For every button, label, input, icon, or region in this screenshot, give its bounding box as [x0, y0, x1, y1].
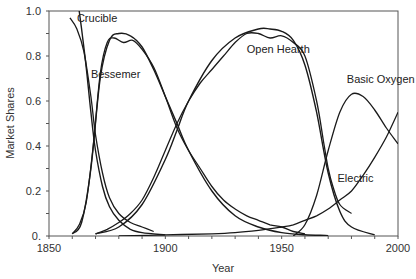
x-tick-label: 1850: [37, 242, 61, 254]
x-axis-title: Year: [212, 262, 235, 274]
y-tick-label: 0.2: [26, 185, 41, 197]
y-tick-label: 0.8: [26, 50, 41, 62]
electric-label: Electric: [338, 172, 375, 184]
crucible-label: Crucible: [77, 12, 117, 24]
bessemer-fit-line: [72, 33, 328, 235]
basic-oxygen-label: Basic Oxygen: [347, 73, 415, 85]
y-tick-label: 0.6: [26, 95, 41, 107]
crucible-observed-line: [70, 18, 154, 232]
plot-frame: [49, 11, 398, 236]
y-tick-label: 1.0: [26, 5, 41, 17]
bessemer-label: Bessemer: [91, 68, 141, 80]
market-share-chart: 0.0.20.40.60.81.01850190019502000 Crucib…: [0, 0, 416, 279]
open-hearth-label: Open Hearth: [247, 43, 310, 55]
basic-oxygen-observed-line: [293, 93, 398, 236]
y-axis-title: Market Shares: [4, 87, 16, 159]
plot-border: [49, 11, 398, 236]
crucible-fit-line: [79, 11, 165, 235]
data-curves: [70, 11, 398, 236]
y-tick-label: 0.4: [26, 140, 41, 152]
x-tick-label: 1900: [153, 242, 177, 254]
y-tick-label: 0.: [32, 230, 41, 242]
x-tick-label: 1950: [269, 242, 293, 254]
x-tick-label: 2000: [386, 242, 410, 254]
open-hearth-fit-line: [96, 28, 375, 235]
open-hearth-observed-line: [96, 33, 352, 234]
